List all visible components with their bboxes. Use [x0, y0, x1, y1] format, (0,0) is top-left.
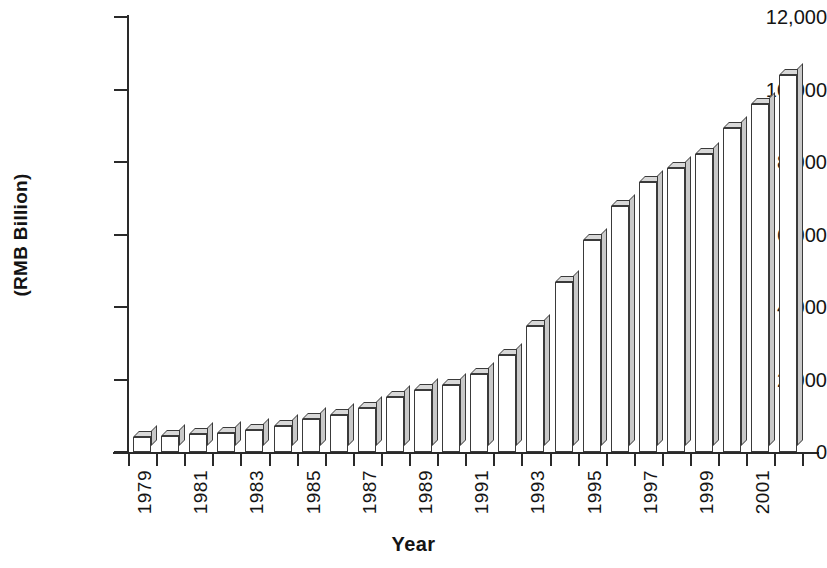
x-axis-tick [606, 453, 608, 466]
bar-front-face [695, 154, 713, 452]
bar-front-face [161, 436, 179, 452]
bar-side-face [488, 362, 494, 446]
x-axis-tick-label: 2001 [752, 470, 774, 514]
bar-side-face [207, 422, 213, 446]
bar-front-face [498, 355, 516, 452]
x-axis-tick-label: 1993 [527, 470, 549, 514]
bar-side-face [516, 343, 522, 446]
x-axis-tick [184, 453, 186, 466]
bar-side-face [404, 385, 410, 446]
bar-side-face [432, 378, 438, 446]
bar-front-face [555, 282, 573, 452]
x-axis-tick [746, 453, 748, 466]
x-axis-tick [325, 453, 327, 466]
x-axis-tick [212, 453, 214, 466]
y-axis-title-text: (RMB Billion) [10, 173, 32, 296]
bar-front-face [386, 397, 404, 452]
bar-front-face [442, 385, 460, 452]
x-axis-tick [465, 453, 467, 466]
y-axis-tick [114, 161, 128, 163]
y-axis-tick [114, 379, 128, 381]
bar-side-face [797, 63, 803, 446]
y-axis-tick-label: 12,000 [723, 6, 827, 29]
bar-front-face [133, 437, 151, 452]
x-axis-tick [297, 453, 299, 466]
x-axis-tick-label: 1991 [471, 470, 493, 514]
bar-front-face [217, 433, 235, 452]
x-axis-tick [269, 453, 271, 466]
bar-front-face [526, 326, 544, 452]
bar-front-face [274, 426, 292, 452]
bar-front-face [611, 206, 629, 452]
x-axis-tick [493, 453, 495, 466]
x-axis-title: Year [0, 533, 827, 556]
bar-front-face [302, 419, 320, 452]
bar-side-face [151, 425, 157, 446]
bar-side-face [629, 194, 635, 446]
x-axis-tick [409, 453, 411, 466]
y-axis-tick [114, 306, 128, 308]
x-axis-tick-label: 1981 [190, 470, 212, 514]
bar-front-face [330, 415, 348, 452]
bar-side-face [601, 228, 607, 446]
bar-side-face [657, 170, 663, 446]
bar-side-face [741, 116, 747, 446]
bar-side-face [179, 424, 185, 446]
x-axis-tick [381, 453, 383, 466]
y-axis-title: (RMB Billion) [0, 0, 42, 470]
bar-front-face [583, 240, 601, 452]
x-axis-tick-label: 1999 [696, 470, 718, 514]
x-axis-tick-label: 1997 [640, 470, 662, 514]
y-axis-tick [114, 234, 128, 236]
y-axis-tick [114, 451, 128, 453]
x-axis-tick [521, 453, 523, 466]
x-axis-tick [156, 453, 158, 466]
x-axis-tick-label: 1995 [584, 470, 606, 514]
bar-side-face [573, 270, 579, 446]
x-axis-tick [578, 453, 580, 466]
bar-side-face [713, 142, 719, 446]
x-axis-tick [353, 453, 355, 466]
x-axis-tick [690, 453, 692, 466]
bar-side-face [460, 373, 466, 446]
bar-front-face [667, 168, 685, 452]
bar-front-face [751, 104, 769, 452]
x-axis-tick-label: 1989 [415, 470, 437, 514]
bar-side-face [235, 421, 241, 446]
x-axis-tick-label: 1987 [359, 470, 381, 514]
x-axis-tick [437, 453, 439, 466]
x-axis-tick-label: 1979 [134, 470, 156, 514]
bar-front-face [358, 408, 376, 452]
x-axis-tick [240, 453, 242, 466]
bar-front-face [470, 374, 488, 452]
bar-front-face [414, 390, 432, 452]
y-axis-tick [114, 16, 128, 18]
bar-front-face [189, 434, 207, 452]
x-axis-tick-label: 1983 [246, 470, 268, 514]
x-axis-tick [634, 453, 636, 466]
x-axis-tick [128, 453, 130, 466]
bar-side-face [348, 403, 354, 446]
bar-front-face [639, 182, 657, 452]
bar-front-face [779, 75, 797, 452]
bar-front-face [245, 430, 263, 452]
x-axis-tick [550, 453, 552, 466]
x-axis-tick [802, 453, 804, 466]
bar-side-face [292, 414, 298, 446]
x-axis-tick-label: 1985 [303, 470, 325, 514]
bar-chart: (RMB Billion) 02,0004,0006,0008,00010,00… [0, 0, 827, 568]
bar-side-face [769, 92, 775, 446]
bar-front-face [723, 128, 741, 452]
x-axis-tick [774, 453, 776, 466]
x-axis-tick [718, 453, 720, 466]
bar-side-face [544, 314, 550, 446]
bar-side-face [320, 407, 326, 446]
x-axis-tick [662, 453, 664, 466]
bar-side-face [685, 156, 691, 446]
bar-side-face [376, 396, 382, 446]
y-axis-tick [114, 89, 128, 91]
bar-side-face [263, 418, 269, 446]
